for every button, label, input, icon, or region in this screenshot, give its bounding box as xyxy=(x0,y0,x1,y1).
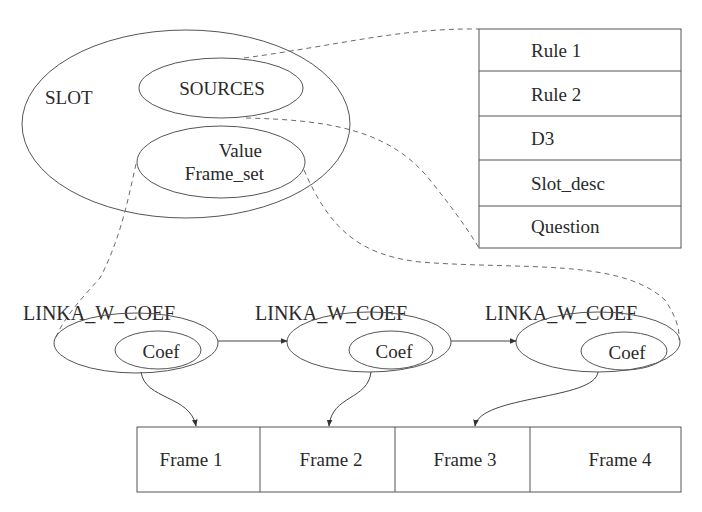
link-node-3: LINKA_W_COEF Coef xyxy=(485,302,680,372)
table-row-rule-2: Rule 2 xyxy=(531,84,581,105)
coef-to-frame-arrows xyxy=(141,372,598,426)
table-row-slot-desc: Slot_desc xyxy=(531,173,605,194)
coef-label: Coef xyxy=(609,342,647,363)
frame-cell-1: Frame 1 xyxy=(160,449,223,470)
frameset-label: Frame_set xyxy=(185,163,265,184)
slot-ellipse xyxy=(22,30,350,218)
coef-1-to-frame-1-arrow xyxy=(141,372,196,426)
table-row-d3: D3 xyxy=(531,128,554,149)
sources-to-table-top-line xyxy=(244,29,479,58)
slot-node: SLOT SOURCES Value Frame_set xyxy=(22,30,350,218)
frame-cell-2: Frame 2 xyxy=(300,449,363,470)
value-frameset-node: Value Frame_set xyxy=(137,126,305,198)
coef-label: Coef xyxy=(143,341,181,362)
sources-label: SOURCES xyxy=(179,78,265,99)
coef-2-to-frame-2-arrow xyxy=(329,372,371,426)
frame-table: Frame 1 Frame 2 Frame 3 Frame 4 xyxy=(137,427,681,492)
frame-cell-4: Frame 4 xyxy=(589,449,652,470)
sources-table: Rule 1 Rule 2 D3 Slot_desc Question xyxy=(479,29,681,248)
value-label: Value xyxy=(219,140,262,161)
value-frameset-ellipse xyxy=(137,126,305,198)
link-node-label: LINKA_W_COEF xyxy=(23,302,175,324)
table-row-rule-1: Rule 1 xyxy=(531,40,581,61)
coef-3-to-frame-3-arrow xyxy=(475,372,598,426)
table-row-question: Question xyxy=(531,216,600,237)
slot-frame-diagram: SLOT SOURCES Value Frame_set Rule 1 Rule… xyxy=(0,0,702,512)
link-node-label: LINKA_W_COEF xyxy=(255,302,407,324)
frame-cell-3: Frame 3 xyxy=(434,449,497,470)
slot-label: SLOT xyxy=(45,87,93,108)
link-node-1: LINKA_W_COEF Coef xyxy=(23,302,218,373)
sources-to-table-bottom-line xyxy=(246,118,479,248)
sources-node: SOURCES xyxy=(139,58,303,118)
link-node-2: LINKA_W_COEF Coef xyxy=(255,302,451,372)
coef-label: Coef xyxy=(376,341,414,362)
